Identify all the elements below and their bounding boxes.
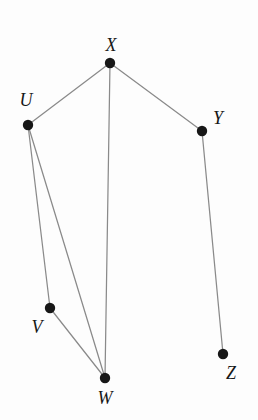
graph-node-label-y: Y <box>213 109 223 127</box>
nodes-group <box>23 58 228 383</box>
graph-node-label-x: X <box>105 36 116 54</box>
edges-group <box>28 63 223 378</box>
graph-svg <box>0 0 258 420</box>
graph-edge-x-y <box>110 63 202 131</box>
graph-node-label-z: Z <box>226 364 236 382</box>
graph-edge-y-z <box>202 131 223 354</box>
graph-edge-u-w <box>28 125 105 378</box>
graph-node-label-u: U <box>19 91 32 109</box>
graph-diagram-canvas: UVWXYZ <box>0 0 258 420</box>
graph-node-v <box>45 303 55 313</box>
graph-node-u <box>23 120 33 130</box>
graph-node-x <box>105 58 115 68</box>
graph-edge-u-v <box>28 125 50 308</box>
graph-node-y <box>197 126 207 136</box>
graph-node-w <box>100 373 110 383</box>
graph-edge-v-w <box>50 308 105 378</box>
graph-node-label-v: V <box>31 318 42 336</box>
graph-edge-x-u <box>28 63 110 125</box>
graph-edge-x-w <box>105 63 110 378</box>
graph-node-z <box>218 349 228 359</box>
graph-node-label-w: W <box>97 389 112 407</box>
